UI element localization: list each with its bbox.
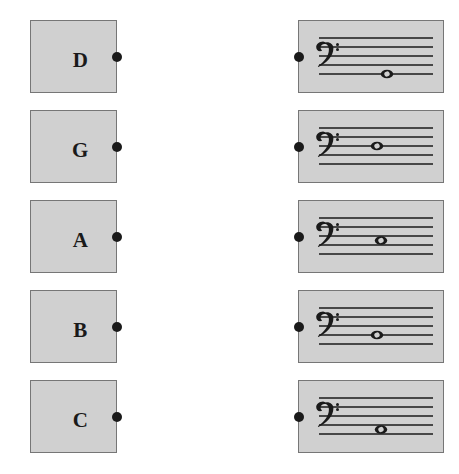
bass-clef-icon: [316, 221, 339, 246]
bass-clef-staff-card[interactable]: [298, 110, 444, 183]
note-letter-card[interactable]: G: [30, 110, 117, 183]
whole-note: [371, 142, 383, 151]
match-row: B: [0, 290, 459, 364]
note-letter-card[interactable]: C: [30, 380, 117, 453]
note-letter-card[interactable]: D: [30, 20, 117, 93]
connector-dot-right[interactable]: [294, 232, 304, 242]
staff-lines: [319, 38, 433, 74]
bass-clef-staff-card[interactable]: [298, 290, 444, 363]
bass-clef-icon: [316, 131, 339, 156]
connector-dot-left[interactable]: [112, 232, 122, 242]
worksheet-canvas: DGABC: [0, 0, 459, 474]
match-row: D: [0, 20, 459, 94]
connector-dot-left[interactable]: [112, 142, 122, 152]
note-letter-label: A: [31, 201, 116, 272]
bass-clef-staff-card[interactable]: [298, 200, 444, 273]
note-letter-label: G: [31, 111, 116, 182]
bass-clef-icon: [316, 401, 339, 426]
connector-dot-left[interactable]: [112, 322, 122, 332]
bass-clef-icon: [316, 311, 339, 336]
connector-dot-right[interactable]: [294, 412, 304, 422]
connector-dot-right[interactable]: [294, 322, 304, 332]
connector-dot-right[interactable]: [294, 52, 304, 62]
note-letter-card[interactable]: B: [30, 290, 117, 363]
bass-clef-icon: [316, 41, 339, 66]
whole-note: [381, 70, 393, 79]
note-letter-card[interactable]: A: [30, 200, 117, 273]
whole-note: [375, 236, 387, 245]
bass-clef-staff-card[interactable]: [298, 380, 444, 453]
connector-dot-right[interactable]: [294, 142, 304, 152]
match-row: C: [0, 380, 459, 454]
note-letter-label: D: [31, 21, 116, 92]
note-letter-label: B: [31, 291, 116, 362]
bass-clef-staff-card[interactable]: [298, 20, 444, 93]
whole-note: [371, 331, 383, 340]
staff-lines: [319, 218, 433, 254]
connector-dot-left[interactable]: [112, 52, 122, 62]
note-letter-label: C: [31, 381, 116, 452]
whole-note: [375, 425, 387, 434]
match-row: G: [0, 110, 459, 184]
match-row: A: [0, 200, 459, 274]
connector-dot-left[interactable]: [112, 412, 122, 422]
